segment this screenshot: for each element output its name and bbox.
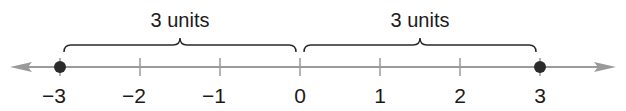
- plotted-point: [534, 61, 546, 73]
- tick-label: −2: [122, 84, 146, 107]
- braces-group: 3 units3 units: [64, 9, 536, 52]
- axis-group: [10, 62, 616, 72]
- tick-label: 0: [294, 84, 306, 107]
- tick-label: −3: [42, 84, 66, 107]
- number-line-diagram: 3 units3 units −3−2−10123: [0, 0, 626, 111]
- brace-label: 3 units: [391, 9, 450, 31]
- tick-label: −1: [202, 84, 226, 107]
- tick-labels-group: −3−2−10123: [42, 84, 546, 107]
- brace: [304, 38, 536, 52]
- tick-label: 2: [454, 84, 466, 107]
- brace-label: 3 units: [151, 9, 210, 31]
- plotted-point: [54, 61, 66, 73]
- tick-label: 3: [534, 84, 546, 107]
- brace: [64, 38, 296, 52]
- tick-label: 1: [374, 84, 386, 107]
